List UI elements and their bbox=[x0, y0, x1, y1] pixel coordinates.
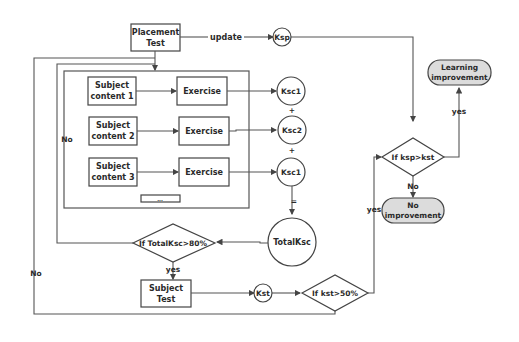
ksc1-label: Ksc1 bbox=[281, 87, 301, 96]
exercise-1-label: Exercise bbox=[183, 87, 221, 96]
edge-total-decision bbox=[217, 242, 268, 243]
ksc1b-label: Ksc1 bbox=[281, 168, 301, 177]
ksp-node: Ksp bbox=[273, 28, 291, 46]
decision-ksp-kst: If ksp>kst bbox=[382, 138, 444, 176]
placement-test-box: Placement Test bbox=[131, 24, 180, 51]
placement-test-label-2: Test bbox=[146, 39, 165, 48]
decision-ksp-label: If ksp>kst bbox=[392, 153, 435, 162]
subject-test-label-1: Subject bbox=[149, 284, 183, 293]
plus-sign-2: + bbox=[289, 146, 295, 155]
subject-content-3-label-1: Subject bbox=[96, 162, 130, 171]
yes-ksp-label: yes bbox=[452, 107, 467, 116]
subject-test-label-2: Test bbox=[157, 295, 176, 304]
no-inner-label: No bbox=[61, 135, 72, 144]
subject-row-1: Subject content 1 Exercise Ksc1 bbox=[88, 77, 305, 105]
edge-ksp-yes bbox=[444, 88, 459, 157]
no-improvement-label-1: No bbox=[407, 201, 418, 210]
exercise-3-label: Exercise bbox=[185, 168, 223, 177]
subject-content-3-label-2: content 3 bbox=[91, 173, 134, 182]
subject-content-1-label-1: Subject bbox=[95, 81, 129, 90]
decision-kst: If kst>50% bbox=[302, 275, 368, 311]
no-ksp-label: No bbox=[407, 182, 418, 191]
subject-row-3: Subject content 3 Exercise Ksc1 bbox=[89, 158, 305, 186]
learning-improvement-label-1: Learning bbox=[441, 63, 478, 72]
decision-total-ksc: If TotalKsc>80% bbox=[133, 224, 215, 262]
no-improvement-terminal: No improvement bbox=[382, 198, 444, 223]
subject-row-2: Subject content 2 Exercise Ksc2 bbox=[89, 116, 306, 145]
ksc2-label: Ksc2 bbox=[282, 126, 302, 135]
equals-sign: = bbox=[291, 197, 297, 206]
update-label: update bbox=[210, 33, 242, 42]
edge-kst-yes bbox=[368, 157, 381, 293]
total-ksc-label: TotalKsc bbox=[273, 238, 311, 247]
no-improvement-label-2: improvement bbox=[385, 211, 442, 220]
more-content-label: ... bbox=[157, 196, 163, 202]
edge-exercise2-ksc bbox=[229, 130, 276, 131]
subject-content-1-label-2: content 1 bbox=[90, 92, 133, 101]
edge-ksp-decision bbox=[291, 37, 413, 121]
decision-total-label: If TotalKsc>80% bbox=[139, 239, 208, 248]
learning-improvement-label-2: improvement bbox=[431, 73, 488, 82]
decision-kst-label: If kst>50% bbox=[312, 289, 358, 298]
yes-kst-label: yes bbox=[367, 205, 382, 214]
learning-flowchart: Placement Test update Ksp Subject conten… bbox=[0, 0, 519, 342]
subject-content-2-label-1: Subject bbox=[96, 121, 130, 130]
exercise-2-label: Exercise bbox=[185, 127, 223, 136]
subject-content-2-label-2: content 2 bbox=[91, 132, 134, 141]
plus-sign-1: + bbox=[289, 106, 295, 115]
total-ksc-node: TotalKsc bbox=[268, 218, 316, 266]
kst-node: Kst bbox=[254, 284, 272, 302]
placement-test-label-1: Placement bbox=[132, 28, 180, 37]
yes-total-label: yes bbox=[166, 265, 181, 274]
ksp-label: Ksp bbox=[274, 33, 290, 42]
no-outer-label: No bbox=[30, 269, 41, 278]
kst-label: Kst bbox=[256, 289, 270, 298]
learning-improvement-terminal: Learning improvement bbox=[428, 60, 491, 85]
subject-test-box: Subject Test bbox=[141, 280, 191, 307]
